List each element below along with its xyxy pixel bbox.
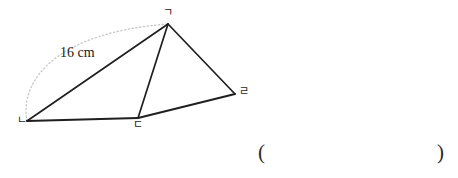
vertex-label-digeut: ㄷ: [133, 119, 143, 130]
answer-blank: ( ): [258, 138, 444, 166]
edge-nieun-digeut: [27, 118, 138, 121]
open-paren: (: [258, 138, 265, 166]
edge-digeut-rieul: [138, 94, 235, 118]
edge-giyeok-rieul: [168, 24, 235, 94]
vertex-label-nieun: ㄴ: [17, 115, 27, 126]
edge-giyeok-digeut: [138, 24, 168, 118]
edge-nieun-giyeok: [27, 24, 168, 121]
close-paren: ): [437, 138, 444, 166]
vertex-label-rieul: ㄹ: [239, 86, 249, 97]
vertex-label-giyeok: ㄱ: [163, 7, 173, 18]
measurement-label: 16 cm: [60, 45, 95, 61]
geometry-figure: ㄱ ㄴ ㄷ ㄹ 16 cm ( ): [0, 0, 458, 178]
